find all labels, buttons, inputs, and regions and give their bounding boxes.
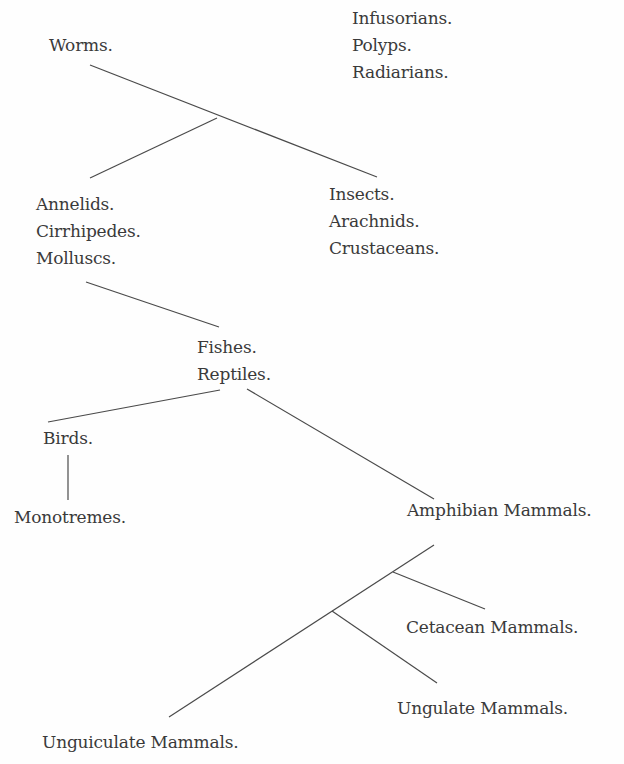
taxon-label: Worms. [49, 32, 113, 59]
taxon-label: Arachnids. [329, 208, 439, 235]
edge-worms-branch-to-annelids [90, 118, 217, 178]
edge-worms-to-insects [90, 65, 377, 177]
node-birds: Birds. [43, 425, 93, 452]
taxon-label: Annelids. [36, 191, 141, 218]
node-ungulate-mammals: Ungulate Mammals. [397, 695, 568, 722]
taxon-label: Birds. [43, 425, 93, 452]
node-amphibian-mammals: Amphibian Mammals. [407, 497, 591, 524]
node-insects: Insects. Arachnids. Crustaceans. [329, 181, 439, 262]
node-worms: Worms. [49, 32, 113, 59]
evolutionary-tree-diagram: Infusorians. Polyps. Radiarians. Worms. … [0, 0, 624, 764]
taxon-label: Fishes. [197, 334, 271, 361]
edge-annelids-to-fishes [86, 282, 219, 327]
edge-amphibian-branch-to-cetacean [393, 572, 485, 609]
node-infusorians: Infusorians. Polyps. Radiarians. [352, 5, 452, 86]
taxon-label: Crustaceans. [329, 235, 439, 262]
taxon-label: Ungulate Mammals. [397, 695, 568, 722]
taxon-label: Reptiles. [197, 361, 271, 388]
edge-amphibian-to-unguiculate [169, 545, 434, 717]
node-monotremes: Monotremes. [14, 504, 126, 531]
edge-fishes-to-birds [48, 390, 220, 422]
taxon-label: Insects. [329, 181, 439, 208]
taxon-label: Polyps. [352, 32, 452, 59]
taxon-label: Molluscs. [36, 245, 141, 272]
taxon-label: Cirrhipedes. [36, 218, 141, 245]
node-unguiculate-mammals: Unguiculate Mammals. [42, 729, 238, 756]
taxon-label: Unguiculate Mammals. [42, 729, 238, 756]
taxon-label: Infusorians. [352, 5, 452, 32]
taxon-label: Monotremes. [14, 504, 126, 531]
node-fishes: Fishes. Reptiles. [197, 334, 271, 388]
taxon-label: Radiarians. [352, 59, 452, 86]
node-cetacean-mammals: Cetacean Mammals. [406, 614, 578, 641]
taxon-label: Cetacean Mammals. [406, 614, 578, 641]
edge-fishes-to-amphibian [247, 389, 434, 499]
node-annelids: Annelids. Cirrhipedes. Molluscs. [36, 191, 141, 272]
taxon-label: Amphibian Mammals. [407, 497, 591, 524]
tree-connector-lines [0, 0, 624, 764]
